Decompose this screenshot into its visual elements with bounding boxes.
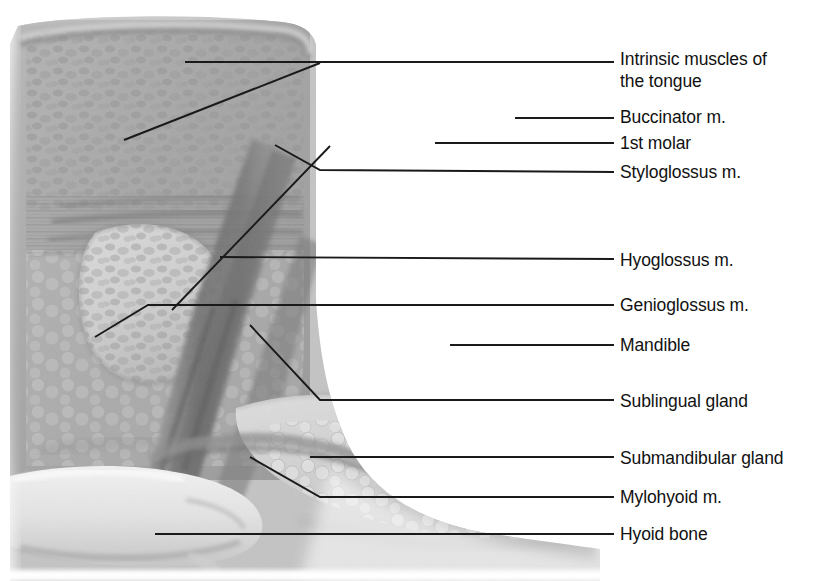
label-sublingual-gland: Sublingual gland (620, 390, 748, 412)
label-text-line2: the tongue (620, 71, 702, 91)
label-styloglossus-m: Styloglossus m. (620, 161, 741, 183)
label-mylohyoid-m: Mylohyoid m. (620, 486, 722, 508)
label-layer: Intrinsic muscles ofthe tongue Buccinato… (0, 0, 825, 581)
label-hyoglossus-m: Hyoglossus m. (620, 249, 733, 271)
label-mandible: Mandible (620, 334, 690, 356)
label-intrinsic-muscles-of-the-tongue: Intrinsic muscles ofthe tongue (620, 48, 767, 92)
label-hyoid-bone: Hyoid bone (620, 523, 708, 545)
label-buccinator-m: Buccinator m. (620, 106, 726, 128)
label-text-line1: Intrinsic muscles of (620, 49, 767, 69)
label-genioglossus-m: Genioglossus m. (620, 294, 749, 316)
label-first-molar: 1st molar (620, 132, 691, 154)
label-submandibular-gland: Submandibular gland (620, 447, 784, 469)
anatomical-figure: Intrinsic muscles ofthe tongue Buccinato… (0, 0, 825, 581)
